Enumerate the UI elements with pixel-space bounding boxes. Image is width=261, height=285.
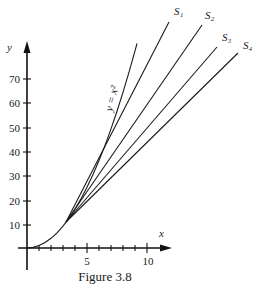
- secant-line-s1: [66, 22, 169, 222]
- secant-label-s1: S₁: [174, 5, 184, 17]
- y-tick-label-20: 20: [9, 195, 21, 207]
- y-axis-label: y: [6, 41, 12, 53]
- secant-line-s4: [66, 53, 238, 222]
- secant-label-s2: S₂: [205, 9, 215, 21]
- y-tick-label-50: 50: [9, 122, 21, 134]
- x-tick-label-5: 5: [84, 255, 90, 267]
- y-tick-label-10: 10: [9, 219, 21, 231]
- figure-caption: Figure 3.8: [78, 269, 131, 284]
- axes: [18, 41, 172, 270]
- parabola-curve: [27, 44, 137, 249]
- secant-lines: [66, 22, 238, 222]
- y-tick-label-40: 40: [9, 146, 21, 158]
- x-tick-label-10: 10: [143, 255, 155, 267]
- y-tick-label-70: 70: [9, 73, 21, 85]
- x-tick-labels: 5 10: [84, 255, 154, 267]
- secant-label-s4: S₄: [243, 39, 253, 51]
- x-axis-arrow-icon: [160, 245, 172, 252]
- y-axis-arrow-icon: [24, 41, 31, 53]
- x-axis-label: x: [158, 227, 164, 239]
- secant-line-s3: [66, 47, 217, 222]
- secant-labels: S₁ S₂ S₃ S₄: [174, 5, 253, 51]
- secant-lines-figure: 10 20 30 40 50 60 70 5 10 y x S₁ S₂ S₃ S…: [0, 0, 261, 285]
- y-tick-labels: 10 20 30 40 50 60 70: [9, 73, 21, 231]
- y-tick-label-30: 30: [9, 170, 21, 182]
- secant-label-s3: S₃: [222, 31, 232, 43]
- y-tick-label-60: 60: [9, 97, 21, 109]
